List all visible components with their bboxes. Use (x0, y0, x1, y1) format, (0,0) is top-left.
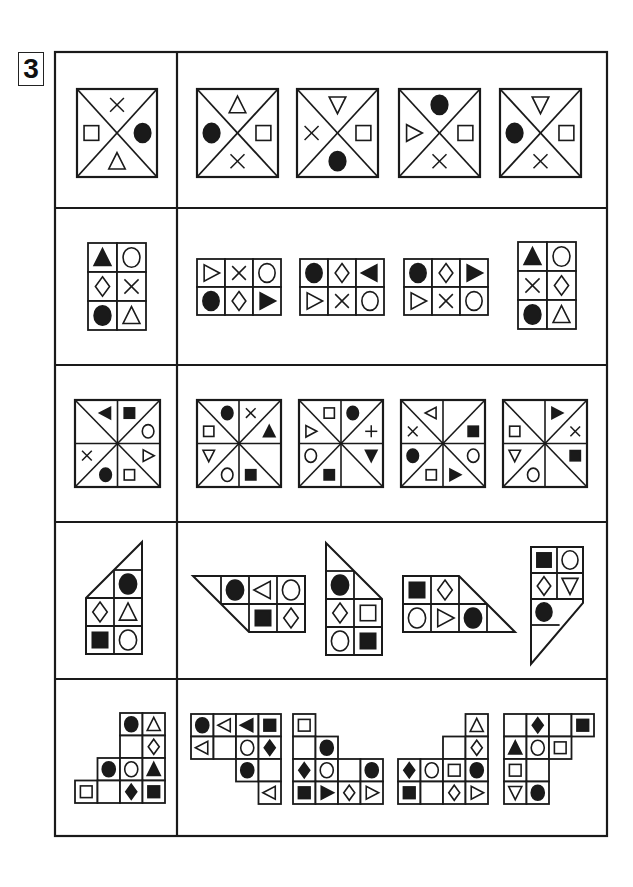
square-o-icon (509, 764, 521, 776)
answer-option-3[interactable] (401, 400, 485, 487)
answer-option-3[interactable] (404, 259, 488, 315)
answer-option-3[interactable] (399, 89, 480, 177)
square-o-icon (360, 605, 375, 620)
square-f-icon (92, 632, 107, 647)
answer-option-4[interactable] (503, 400, 587, 487)
circle-f-icon (134, 123, 150, 142)
square-f-icon (537, 553, 551, 567)
square-o-icon (448, 764, 460, 776)
square-o-icon (324, 408, 334, 418)
square-o-icon (204, 426, 214, 436)
answer-option-4[interactable] (531, 547, 583, 664)
answer-options (197, 400, 587, 487)
circle-f-icon (365, 763, 378, 778)
circle-o-icon (562, 551, 578, 570)
square-f-icon (246, 470, 256, 480)
square-f-icon (403, 787, 415, 799)
square-f-icon (124, 408, 134, 418)
question-figure (75, 713, 165, 803)
circle-f-icon (506, 123, 523, 142)
circle-f-icon (203, 123, 220, 142)
puzzle-row-4 (86, 542, 583, 664)
circle-f-icon (531, 785, 544, 800)
answer-option-1[interactable] (193, 576, 305, 632)
circle-f-icon (100, 468, 112, 481)
square-f-icon (324, 470, 334, 480)
answer-option-1[interactable] (197, 89, 278, 177)
circle-o-icon (123, 248, 140, 268)
square-f-icon (360, 633, 375, 648)
answer-option-3[interactable] (403, 576, 515, 632)
answer-option-2[interactable] (299, 400, 383, 487)
square-o-icon (80, 786, 92, 798)
square-o-icon (458, 126, 473, 141)
circle-o-icon (142, 425, 154, 438)
answer-option-1[interactable] (191, 714, 281, 804)
square-o-icon (510, 426, 520, 436)
answer-option-4[interactable] (518, 242, 576, 329)
answer-option-3[interactable] (398, 714, 488, 804)
square-o-icon (84, 126, 99, 141)
circle-o-icon (125, 762, 138, 777)
square-o-icon (356, 126, 371, 141)
question-figure (88, 243, 146, 330)
circle-o-icon (531, 740, 544, 755)
answer-option-4[interactable] (500, 89, 581, 177)
puzzle-row-5 (75, 713, 594, 804)
circle-f-icon (431, 95, 448, 114)
circle-o-icon (241, 740, 254, 755)
puzzle-sheet (0, 0, 633, 887)
circle-f-icon (410, 264, 426, 283)
circle-o-icon (305, 449, 316, 462)
circle-f-icon (407, 449, 418, 462)
answer-options (191, 714, 594, 804)
answer-option-1[interactable] (197, 400, 281, 487)
circle-f-icon (125, 717, 138, 732)
circle-f-icon (464, 608, 481, 628)
circle-o-icon (282, 580, 299, 600)
square-f-icon (577, 719, 589, 731)
square-f-icon (468, 426, 478, 436)
circle-o-icon (221, 468, 232, 481)
square-o-icon (256, 126, 271, 141)
puzzle-row-1 (77, 89, 581, 177)
circle-o-icon (119, 630, 136, 650)
circle-f-icon (306, 264, 322, 283)
circle-o-icon (259, 264, 275, 283)
circle-f-icon (94, 306, 111, 326)
answer-option-2[interactable] (293, 714, 383, 804)
question-figure (77, 89, 157, 177)
circle-o-icon (467, 449, 478, 462)
circle-o-icon (320, 763, 333, 778)
square-o-icon (124, 470, 134, 480)
circle-o-icon (362, 292, 378, 311)
answer-option-1[interactable] (197, 259, 281, 315)
answer-option-4[interactable] (504, 714, 594, 804)
circle-f-icon (331, 575, 348, 595)
answer-options (193, 543, 583, 664)
circle-f-icon (119, 574, 136, 594)
square-f-icon (255, 610, 270, 625)
circle-f-icon (470, 763, 483, 778)
answer-option-2[interactable] (297, 89, 378, 177)
circle-o-icon (527, 468, 538, 481)
answer-options (197, 242, 576, 329)
square-o-icon (298, 719, 310, 731)
circle-f-icon (320, 740, 333, 755)
square-f-icon (570, 451, 580, 461)
square-o-icon (426, 470, 436, 480)
answer-option-2[interactable] (326, 543, 382, 655)
answer-option-2[interactable] (300, 259, 384, 315)
circle-f-icon (221, 406, 232, 419)
circle-f-icon (196, 718, 209, 733)
circle-o-icon (408, 608, 425, 628)
question-figure (86, 542, 142, 654)
square-f-icon (409, 582, 424, 597)
square-f-icon (264, 719, 276, 731)
square-f-icon (148, 786, 160, 798)
circle-f-icon (241, 763, 254, 778)
question-figure (75, 400, 160, 487)
circle-o-icon (553, 247, 570, 267)
circle-f-icon (226, 580, 243, 600)
square-f-icon (298, 787, 310, 799)
